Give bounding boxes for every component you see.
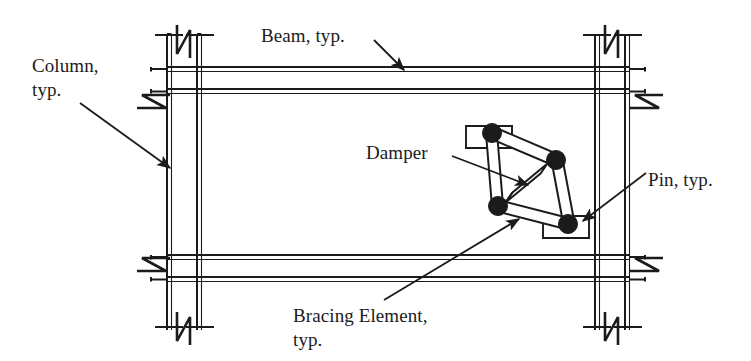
label-bracing-element: Bracing Element, typ. [293, 304, 428, 352]
break-symbol-right-upper [630, 95, 663, 108]
figure-canvas: Column, typ. Beam, typ. Damper Pin, typ.… [0, 0, 751, 361]
pin-bottom [559, 215, 578, 234]
upper-beam-right-cap-lower [629, 89, 645, 94]
break-symbol-right-lower [630, 258, 663, 271]
label-damper: Damper [366, 141, 428, 165]
lower-beam [167, 255, 629, 282]
break-symbol-bottom-left [177, 312, 190, 345]
leader-column [80, 103, 170, 168]
leader-pin [583, 173, 646, 221]
break-symbol-left-upper [137, 95, 170, 108]
upper-beam-right-cap [629, 67, 645, 72]
break-symbol-top-right [605, 25, 618, 58]
left-column-top-caps [155, 34, 214, 35]
break-symbol-bottom-right [605, 312, 618, 345]
left-column [167, 34, 202, 330]
label-column: Column, typ. [32, 54, 99, 102]
break-symbol-top-left [177, 25, 190, 58]
upper-beam-left-cap-lower [151, 89, 167, 94]
pin-right [547, 151, 566, 170]
upper-beam-left-cap [151, 67, 167, 72]
label-pin: Pin, typ. [648, 168, 713, 192]
upper-beam [167, 67, 629, 94]
right-column [595, 34, 630, 330]
lower-beam-right-cap-lower [629, 277, 645, 282]
break-symbol-left-lower [137, 258, 170, 271]
pin-left [489, 197, 508, 216]
label-beam: Beam, typ. [261, 24, 345, 48]
damper-diagonal-element [506, 164, 548, 203]
pin-top [483, 124, 502, 143]
leader-beam [374, 40, 404, 70]
lower-beam-left-cap-lower [151, 277, 167, 282]
